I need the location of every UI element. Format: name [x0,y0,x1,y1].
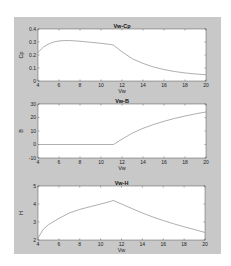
x-tick-label: 14 [140,82,146,88]
y-tick-label: 30 [30,101,36,107]
y-tick-label: 2 [33,237,36,243]
x-tick-label: 4 [37,159,40,165]
x-tick-label: 4 [37,241,40,247]
figure-window: 46810121416182000.10.20.30.4Vw-CpVwCp468… [14,17,221,254]
y-tick-label: 0 [33,141,36,147]
y-tick-label: 0 [33,78,36,84]
y-tick-label: 0.2 [29,52,36,58]
y-tick-label: -10 [29,155,36,161]
x-tick-label: 14 [140,241,146,247]
y-tick-label: 0.1 [29,65,36,71]
x-tick-label: 8 [79,82,82,88]
x-tick-label: 18 [182,82,188,88]
y-axis-label: Cp [18,51,24,58]
y-tick-label: 5 [33,183,36,189]
y-axis-label: B [18,129,24,133]
y-tick-label: 10 [30,128,36,134]
x-axis-label: Vw [118,165,126,171]
x-tick-label: 20 [203,82,209,88]
chart-title: Vw-H [115,180,129,186]
x-tick-label: 14 [140,159,146,165]
x-tick-label: 16 [161,82,167,88]
subplots-canvas: 46810121416182000.10.20.30.4Vw-CpVwCp468… [14,17,221,254]
x-tick-label: 16 [161,159,167,165]
x-tick-label: 10 [98,241,104,247]
y-tick-label: 0.3 [29,39,36,45]
x-tick-label: 6 [57,241,60,247]
axes-1 [38,29,206,81]
x-tick-label: 10 [98,159,104,165]
x-tick-label: 10 [98,82,104,88]
x-tick-label: 6 [58,82,61,88]
x-tick-label: 20 [203,159,209,165]
y-tick-label: 0.4 [29,26,36,32]
x-tick-label: 6 [58,159,61,165]
x-axis-label: Vw [118,247,126,253]
chart-title: Vw-Cp [113,23,131,29]
x-tick-label: 8 [78,241,81,247]
x-tick-label: 8 [79,159,82,165]
x-tick-label: 20 [202,241,208,247]
y-tick-label: 4 [33,201,36,207]
y-tick-label: 20 [30,114,36,120]
x-tick-label: 16 [160,241,166,247]
x-tick-label: 18 [181,241,187,247]
axes-3 [38,186,205,240]
x-tick-label: 4 [37,82,40,88]
x-axis-label: Vw [118,88,126,94]
chart-title: Vw-B [115,98,129,104]
y-tick-label: 3 [33,219,36,225]
x-tick-label: 18 [182,159,188,165]
axes-2 [38,104,206,158]
y-axis-label: H [18,211,24,215]
